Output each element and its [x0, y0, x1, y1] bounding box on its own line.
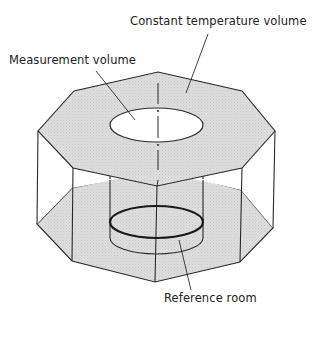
- label-reference-room: Reference room: [164, 291, 257, 305]
- enclosure-diagram: [0, 0, 315, 344]
- label-constant-temperature-volume: Constant temperature volume: [130, 14, 307, 28]
- label-measurement-volume: Measurement volume: [9, 53, 136, 67]
